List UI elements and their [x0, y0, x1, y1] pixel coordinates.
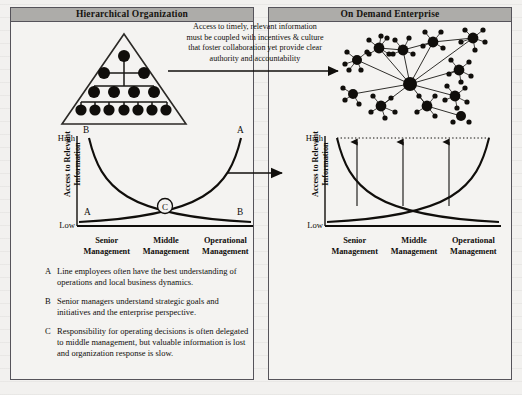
x-label-operational-line1: Operational [444, 236, 503, 247]
chart-right-x-labels: Senior Management Middle Management Oper… [325, 236, 503, 257]
note-key-a: A [45, 266, 57, 288]
x-label-operational: Operational Management [196, 236, 255, 257]
chart-left-label-a-top: A [237, 125, 244, 135]
x-label-senior-line2: Management [325, 247, 384, 258]
center-note-line-4: authority and accountability [160, 54, 350, 65]
center-annotation-text: Access to timely, relevant information m… [160, 22, 350, 64]
transition-arrow [228, 166, 290, 180]
chart-left-label-b-bottom: B [237, 207, 243, 217]
svg-text:C: C [162, 202, 168, 212]
x-label-middle: Middle Management [136, 236, 195, 257]
center-note-line-2: must be coupled with incentives & cultur… [160, 33, 350, 44]
x-label-middle: Middle Management [384, 236, 443, 257]
center-annotation-arrow [168, 64, 346, 76]
x-label-senior-line1: Senior [325, 236, 384, 247]
list-item: C Responsibility for operating decisions… [45, 326, 250, 360]
chart-left-label-b-top: B [83, 125, 89, 135]
list-item: A Line employees often have the best und… [45, 266, 250, 288]
slide-canvas: Hierarchical Organization [0, 0, 522, 395]
x-label-middle-line1: Middle [384, 236, 443, 247]
list-item: B Senior managers understand strategic g… [45, 296, 250, 318]
note-key-b: B [45, 296, 57, 318]
x-label-middle-line1: Middle [136, 236, 195, 247]
x-label-senior: Senior Management [325, 236, 384, 257]
panel-left-title: Hierarchical Organization [10, 7, 254, 22]
panel-right-title: On Demand Enterprise [268, 7, 512, 22]
center-note-line-1: Access to timely, relevant information [160, 22, 350, 33]
note-text-a: Line employees often have the best under… [57, 266, 250, 288]
x-label-operational: Operational Management [444, 236, 503, 257]
x-label-operational-line2: Management [444, 247, 503, 258]
chart-on-demand-access: Access to Relevant Information High Low [277, 128, 503, 260]
note-text-b: Senior managers understand strategic goa… [57, 296, 250, 318]
center-note-line-3: that foster collaboration yet provide cl… [160, 43, 350, 54]
x-label-senior-line2: Management [77, 247, 136, 258]
note-key-c: C [45, 326, 57, 360]
x-label-senior: Senior Management [77, 236, 136, 257]
x-label-middle-line2: Management [136, 247, 195, 258]
chart-left-x-labels: Senior Management Middle Management Oper… [77, 236, 255, 257]
x-label-operational-line2: Management [196, 247, 255, 258]
x-label-middle-line2: Management [384, 247, 443, 258]
chart-left-label-a-bottom: A [84, 207, 91, 217]
hierarchical-notes-list: A Line employees often have the best und… [45, 266, 250, 367]
x-label-senior-line1: Senior [77, 236, 136, 247]
x-label-operational-line1: Operational [196, 236, 255, 247]
note-text-c: Responsibility for operating decisions i… [57, 326, 250, 360]
chart-hierarchical-access: Access to Relevant Information High Low … [29, 128, 255, 260]
